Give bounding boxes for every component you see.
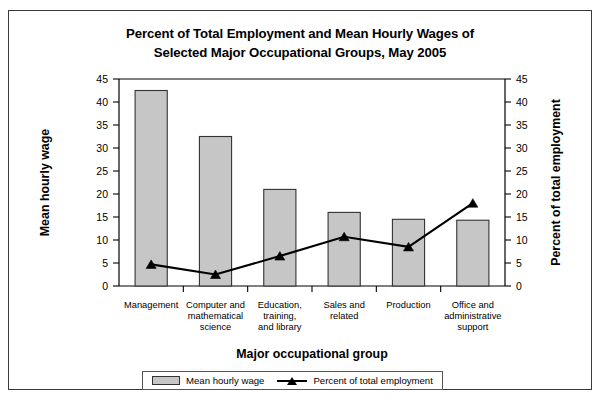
legend-item-percent-total-employment: Percent of total employment [277,375,432,386]
y-axis-right-tick-label: 45 [516,73,528,85]
y-axis-right-tick-label: 10 [516,234,528,246]
x-axis-category-label-3: Sales and [323,300,364,310]
y-axis-right-tick-label: 30 [516,142,528,154]
x-axis-category-label-0: Management [124,300,179,310]
x-axis-category-label-4: Production [386,300,430,310]
y-axis-left-tick-label: 5 [102,257,108,269]
legend-label-percent-total-employment: Percent of total employment [313,375,432,386]
y-axis-right-tick-label: 25 [516,165,528,177]
bar-3 [328,212,360,286]
chart-legend: Mean hourly wage Percent of total employ… [142,371,443,390]
x-axis-category-label-2: training, [263,311,296,321]
y-axis-right-tick-label: 15 [516,211,528,223]
bar-1 [199,137,231,287]
y-axis-left-tick-label: 40 [96,96,108,108]
x-axis-category-label-5: administrative [444,311,501,321]
y-axis-right-tick-label: 0 [516,280,522,292]
x-axis-category-label-3: related [330,311,358,321]
y-axis-left-tick-label: 0 [102,280,108,292]
y-axis-right-tick-label: 35 [516,119,528,131]
legend-line-marker-swatch-icon [277,376,307,386]
chart-frame: Percent of Total Employment and Mean Hou… [8,10,592,390]
y-axis-right-tick-label: 5 [516,257,522,269]
legend-label-mean-hourly-wage: Mean hourly wage [186,375,264,386]
y-axis-right-tick-label: 20 [516,188,528,200]
x-axis-category-label-1: mathematical [188,311,243,321]
bar-5 [457,220,489,286]
x-axis-category-label-5: Office and [452,300,494,310]
x-axis-category-label-2: Education, [258,300,302,310]
bar-0 [135,91,167,287]
y-axis-left-title: Mean hourly wage [38,129,52,237]
x-axis-category-label-1: science [200,322,232,332]
x-axis-category-label-5: support [457,322,488,332]
line-marker-5 [468,199,478,208]
legend-item-mean-hourly-wage: Mean hourly wage [152,375,264,386]
y-axis-left-tick-label: 15 [96,211,108,223]
bar-2 [264,189,296,286]
legend-bar-swatch-icon [152,376,180,385]
plot-area: 051015202530354045051015202530354045Mana… [9,11,593,391]
y-axis-left-tick-label: 20 [96,188,108,200]
x-axis-category-label-1: Computer and [186,300,245,310]
x-axis-category-label-2: and library [258,322,302,332]
y-axis-left-tick-label: 30 [96,142,108,154]
x-axis-title: Major occupational group [236,347,388,361]
y-axis-left-tick-label: 10 [96,234,108,246]
y-axis-right-tick-label: 40 [516,96,528,108]
y-axis-left-tick-label: 25 [96,165,108,177]
bar-4 [392,219,424,286]
y-axis-left-tick-label: 35 [96,119,108,131]
y-axis-left-tick-label: 45 [96,73,108,85]
y-axis-right-title: Percent of total employment [549,99,563,266]
